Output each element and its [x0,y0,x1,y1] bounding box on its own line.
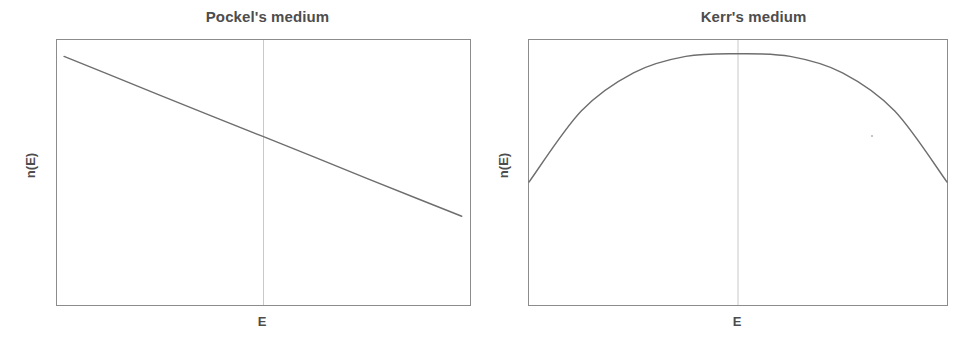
y-axis-label-kerr: n(E) [496,141,511,191]
scan-speck-artifact [871,135,873,137]
chart-title-pockel: Pockel's medium [0,8,489,25]
chart-title-kerr: Kerr's medium [489,8,978,25]
x-axis-label-kerr: E [712,314,762,329]
chart-panel-kerr: Kerr's medium n(E) E [489,0,978,345]
plot-area-pockel [56,39,471,306]
figure-container: Pockel's medium n(E) E Kerr's medium n(E… [0,0,978,345]
data-line-pockel [64,56,462,216]
plot-area-kerr [528,39,948,306]
plot-svg-pockel [57,40,470,305]
chart-panel-pockel: Pockel's medium n(E) E [0,0,489,345]
x-axis-label-pockel: E [237,314,287,329]
plot-svg-kerr [529,40,947,305]
y-axis-label-pockel: n(E) [23,141,38,191]
